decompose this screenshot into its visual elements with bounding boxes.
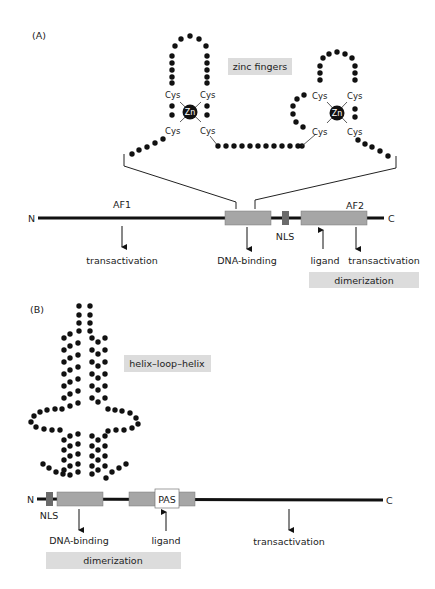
- ligand-label: ligand: [310, 255, 339, 266]
- zinc-fingers-label: zinc fingers: [233, 61, 288, 72]
- arrows-a: [122, 226, 356, 249]
- zn-label: Zn: [332, 109, 343, 118]
- af1-label: AF1: [113, 199, 131, 210]
- cys-label: Cys: [347, 91, 363, 101]
- linker-strand: [210, 134, 316, 149]
- c-terminus: C: [386, 495, 393, 506]
- dna-binding-domain: [225, 211, 271, 225]
- nls-domain: [282, 211, 289, 225]
- protein-bar-b: N C PAS NLS: [27, 489, 393, 521]
- nls-label: NLS: [40, 510, 58, 521]
- c-terminus: C: [388, 213, 395, 224]
- dimerization-label: dimerization: [334, 275, 393, 286]
- transactivation-label: transactivation: [86, 255, 157, 266]
- zn-label: Zn: [185, 108, 196, 117]
- n-terminus: N: [27, 494, 34, 505]
- transactivation-label: transactivation: [348, 255, 419, 266]
- arrows-b: [79, 509, 289, 531]
- dna-binding-domain: [57, 492, 103, 506]
- dna-binding-label: DNA-binding: [217, 255, 277, 266]
- hlh-label: helix–loop–helix: [129, 358, 205, 369]
- cys-label: Cys: [200, 126, 216, 136]
- n-terminus: N: [28, 213, 35, 224]
- dimerization-label: dimerization: [83, 555, 142, 566]
- cys-label: Cys: [165, 126, 181, 136]
- helix-loop-helix-structure: [28, 303, 140, 480]
- transactivation-label: transactivation: [253, 536, 324, 547]
- panel-b-label: (B): [30, 304, 44, 315]
- panel-a-label: (A): [32, 30, 46, 41]
- protein-bar-a: N C AF1 AF2 NLS: [28, 199, 395, 242]
- ligand-label: ligand: [151, 535, 180, 546]
- cys-label: Cys: [165, 90, 181, 100]
- cys-label: Cys: [312, 127, 328, 137]
- zinc-finger-1: Zn Cys Cys Cys Cys: [129, 33, 216, 156]
- nls-label: NLS: [276, 231, 294, 242]
- cys-label: Cys: [200, 90, 216, 100]
- af2-label: AF2: [346, 200, 364, 211]
- zinc-finger-2: Zn Cys Cys Cys Cys: [290, 49, 390, 158]
- dna-binding-label: DNA-binding: [49, 535, 109, 546]
- nls-domain: [46, 492, 53, 506]
- cys-label: Cys: [347, 127, 363, 137]
- pas-label: PAS: [158, 494, 176, 505]
- ligand-binding-domain: [301, 211, 367, 225]
- cys-label: Cys: [312, 91, 328, 101]
- nuclear-receptor-diagram: (A) Zn Cys Cys Cys Cys: [0, 0, 435, 589]
